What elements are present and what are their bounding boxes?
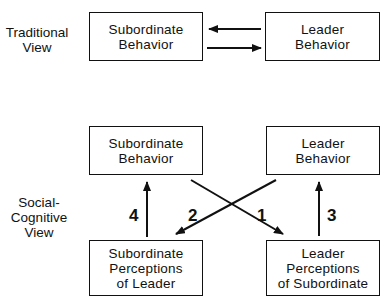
trad-leader-behavior-box: Leader Behavior (265, 12, 380, 61)
arrow-label-2: 2 (188, 207, 197, 224)
traditional-view-label: Traditional View (2, 25, 72, 55)
social-cognitive-view-label: Social- Cognitive View (4, 195, 74, 240)
trad-subordinate-behavior-box: Subordinate Behavior (89, 12, 203, 61)
sc-leader-behavior-box: Leader Behavior (266, 126, 380, 175)
arrow-label-4: 4 (129, 207, 138, 224)
sc-subordinate-behavior-box: Subordinate Behavior (89, 126, 203, 175)
sc-subordinate-perceptions-box: Subordinate Perceptions of Leader (89, 240, 203, 296)
arrow-label-3: 3 (327, 207, 336, 224)
arrow-1 (191, 180, 283, 234)
sc-leader-perceptions-box: Leader Perceptions of Subordinate (266, 240, 380, 296)
arrow-label-1: 1 (257, 207, 266, 224)
